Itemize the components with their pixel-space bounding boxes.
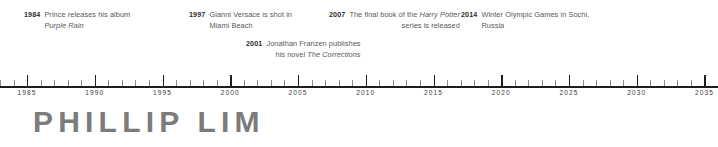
axis-tick-minor — [244, 80, 245, 86]
axis-tick-minor — [542, 80, 543, 86]
axis-tick-minor — [406, 80, 407, 86]
annotation-line: Gianni Versace is shot in — [209, 10, 292, 21]
axis-tick-minor — [257, 80, 258, 86]
axis-tick-minor — [108, 80, 109, 86]
axis-tick-minor — [583, 80, 584, 86]
axis-tick-minor — [393, 80, 394, 86]
annotation-title-italic: Harry Potter — [420, 10, 460, 19]
annotation-line: his novel The Corrections — [266, 50, 360, 61]
page-title: PHILLIP LIM — [33, 104, 265, 140]
axis-tick-major — [95, 75, 96, 86]
axis-tick-minor — [190, 80, 191, 86]
axis-tick-minor — [54, 80, 55, 86]
axis-tick-minor — [474, 80, 475, 86]
event-description: Jonathan Franzen publisheshis novel The … — [266, 39, 360, 60]
axis-tick-minor — [461, 80, 462, 86]
timeline-event-2001: 2001Jonathan Franzen publisheshis novel … — [246, 39, 361, 60]
axis-tick-minor — [0, 80, 1, 86]
axis-tick-label: 2035 — [695, 89, 714, 96]
axis-tick-minor — [488, 80, 489, 86]
axis-tick-minor — [610, 80, 611, 86]
axis-tick-minor — [203, 80, 204, 86]
timeline-event-1997: 1997Gianni Versace is shot inMiami Beach — [189, 10, 292, 31]
timeline-event-2014: 2014Winter Olympic Games in Sochi,Russia — [461, 10, 589, 31]
axis-tick-label: 2030 — [627, 89, 646, 96]
annotation-line: Prince releases his album — [44, 10, 130, 21]
axis-tick-minor — [352, 80, 353, 86]
axis-tick-minor — [339, 80, 340, 86]
axis-tick-label: 2010 — [356, 89, 375, 96]
annotation-line: Purple Rain — [44, 21, 130, 32]
axis-tick-minor — [284, 80, 285, 86]
timeline-event-2007: 2007The final book of the Harry Potterse… — [329, 10, 460, 31]
axis-tick-minor — [271, 80, 272, 86]
annotation-line: Russia — [481, 21, 589, 32]
annotation-line: series is released — [349, 21, 460, 32]
axis-tick-minor — [664, 80, 665, 86]
axis-tick-label: 2020 — [492, 89, 511, 96]
axis-tick-minor — [515, 80, 516, 86]
axis-tick-minor — [650, 80, 651, 86]
event-year-label: 2014 — [461, 10, 477, 21]
axis-tick-minor — [325, 80, 326, 86]
axis-tick-major — [163, 75, 164, 86]
axis-tick-minor — [623, 80, 624, 86]
axis-tick-major — [230, 75, 231, 86]
axis-tick-major — [27, 75, 28, 86]
timeline-event-1984: 1984Prince releases his albumPurple Rain — [24, 10, 130, 31]
axis-tick-minor — [379, 80, 380, 86]
axis-tick-minor — [149, 80, 150, 86]
axis-tick-minor — [596, 80, 597, 86]
axis-tick-minor — [691, 80, 692, 86]
axis-tick-minor — [420, 80, 421, 86]
axis-tick-label: 2005 — [288, 89, 307, 96]
axis-tick-major — [298, 75, 299, 86]
axis-tick-minor — [135, 80, 136, 86]
axis-tick-minor — [217, 80, 218, 86]
axis-tick-minor — [122, 80, 123, 86]
axis-tick-minor — [447, 80, 448, 86]
timeline-axis: 1985199019952000200520102015202020252030… — [0, 66, 718, 100]
axis-tick-major — [434, 75, 435, 86]
event-description: The final book of the Harry Potterseries… — [349, 10, 460, 31]
event-year-label: 2007 — [329, 10, 345, 21]
event-year-label: 2001 — [246, 39, 262, 50]
axis-tick-major — [366, 75, 367, 86]
annotation-title-italic: Purple Rain — [44, 21, 83, 30]
event-year-label: 1984 — [24, 10, 40, 21]
axis-tick-minor — [14, 80, 15, 86]
timeline-infographic: 1984Prince releases his albumPurple Rain… — [0, 0, 718, 147]
axis-tick-minor — [528, 80, 529, 86]
event-description: Prince releases his albumPurple Rain — [44, 10, 130, 31]
axis-tick-label: 1990 — [85, 89, 104, 96]
axis-tick-label: 2015 — [424, 89, 443, 96]
axis-tick-minor — [81, 80, 82, 86]
axis-tick-label: 2025 — [559, 89, 578, 96]
axis-tick-minor — [555, 80, 556, 86]
axis-tick-label: 1995 — [153, 89, 172, 96]
event-description: Winter Olympic Games in Sochi,Russia — [481, 10, 589, 31]
axis-tick-major — [569, 75, 570, 86]
axis-tick-label: 2000 — [221, 89, 240, 96]
annotation-line: Winter Olympic Games in Sochi, — [481, 10, 589, 21]
annotation-title-italic: The Corrections — [307, 50, 360, 59]
axis-tick-minor — [41, 80, 42, 86]
annotation-line: Miami Beach — [209, 21, 292, 32]
event-description: Gianni Versace is shot inMiami Beach — [209, 10, 292, 31]
axis-tick-minor — [176, 80, 177, 86]
axis-tick-major — [637, 75, 638, 86]
axis-tick-label: 1985 — [18, 89, 37, 96]
annotation-line: The final book of the Harry Potter — [349, 10, 460, 21]
axis-baseline — [0, 86, 718, 88]
axis-tick-major — [501, 75, 502, 86]
event-year-label: 1997 — [189, 10, 205, 21]
axis-tick-minor — [677, 80, 678, 86]
axis-tick-major — [704, 75, 705, 86]
annotation-line: Jonathan Franzen publishes — [266, 39, 360, 50]
axis-tick-minor — [312, 80, 313, 86]
axis-tick-minor — [68, 80, 69, 86]
